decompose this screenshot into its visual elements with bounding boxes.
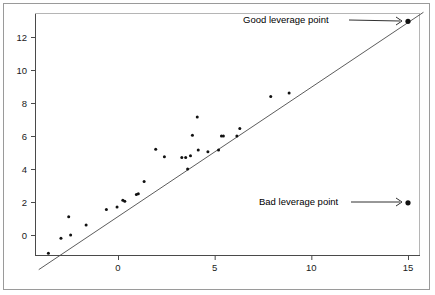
y-tick-label: 6 [22,131,27,142]
screenshot-root: Good leverage pointBad leverage point 02… [0,0,435,295]
scatter-plot: Good leverage pointBad leverage point 02… [0,0,435,295]
data-points-layer [47,19,411,255]
data-point [196,116,199,119]
data-point [269,95,272,98]
data-point [59,237,62,240]
data-point [163,155,166,158]
data-point [217,149,220,152]
x-tick-label: 15 [403,262,414,273]
data-point [123,200,126,203]
bad-leverage-point [405,200,410,205]
fitted-regression-line [39,12,424,269]
data-point [105,208,108,211]
data-point [206,150,209,153]
y-tick-label: 12 [16,32,27,43]
data-point [288,92,291,95]
data-point [116,205,119,208]
data-point [85,224,88,227]
axis-layer [31,13,420,260]
x-tick-label: 0 [115,262,120,273]
good-leverage-annotation-arrow-shaft [349,20,400,21]
data-point [184,156,187,159]
y-tick-label: 4 [22,164,27,175]
data-point [222,135,225,138]
data-point [154,148,157,151]
regression-line-layer [39,12,424,269]
data-point [197,149,200,152]
x-tick-label: 10 [306,262,317,273]
y-tick-label: 0 [22,230,27,241]
good-leverage-annotation-text: Good leverage point [243,14,329,25]
x-tick-label: 5 [212,262,217,273]
y-tick-label: 8 [22,98,27,109]
y-tick-label: 10 [16,65,27,76]
data-point [143,180,146,183]
data-point [186,168,189,171]
data-point [67,215,70,218]
data-point [191,134,194,137]
data-point [235,135,238,138]
data-point [180,156,183,159]
good-leverage-point [405,19,410,24]
data-point [69,234,72,237]
data-point [137,192,140,195]
y-tick-label: 2 [22,197,27,208]
data-point [189,154,192,157]
data-point [238,127,241,130]
data-point [47,252,50,255]
bad-leverage-annotation-text: Bad leverage point [259,196,339,207]
